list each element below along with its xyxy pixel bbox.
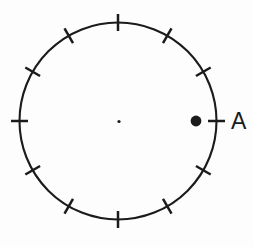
diagram-canvas: A (0, 0, 253, 247)
point-a-label: A (231, 108, 247, 134)
tick-mark (65, 199, 74, 214)
tick-mark (196, 166, 211, 175)
center-dot (117, 120, 120, 123)
circle-tick-diagram: A (0, 0, 253, 247)
tick-mark (163, 199, 172, 214)
tick-mark (196, 68, 211, 77)
tick-mark (163, 28, 172, 43)
tick-mark (25, 166, 40, 175)
point-a-dot (191, 116, 202, 127)
tick-mark (65, 28, 74, 43)
tick-mark (25, 68, 40, 77)
